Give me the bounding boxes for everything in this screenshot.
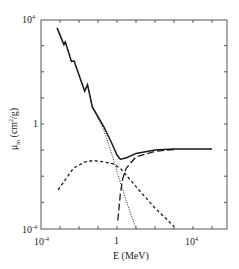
x-axis-ticks <box>60 20 212 229</box>
x-tick-label-mid: 1 <box>114 236 119 246</box>
y-tick-label-mid: 1 <box>33 119 38 129</box>
y-tick-label-top: 104 <box>22 14 35 25</box>
pair-production-curve <box>118 150 174 221</box>
x-tick-label-right: 104 <box>185 236 198 247</box>
x-axis-label: E (MeV) <box>113 251 149 261</box>
curves <box>57 28 212 229</box>
y-axis-ticks <box>41 46 227 203</box>
photoelectric-curve <box>57 28 136 229</box>
total-curve <box>57 28 212 159</box>
y-tick-label-bottom: 10-4 <box>22 224 37 235</box>
x-tick-label-left: 10-4 <box>34 236 49 247</box>
compton-curve <box>58 161 174 227</box>
y-axis-label: μm (cm2/g) <box>8 108 21 150</box>
